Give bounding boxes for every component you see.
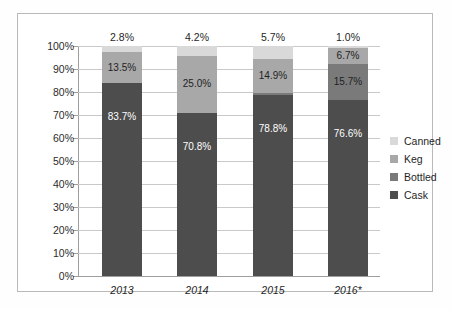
x-axis-tick-label: 2014	[162, 284, 232, 296]
y-axis-tick-label: 40%	[53, 178, 74, 190]
legend-swatch-icon	[390, 191, 398, 199]
bar-segment-keg[interactable]: 25.0%	[177, 56, 217, 114]
bar-segment-keg[interactable]: 13.5%	[102, 52, 142, 83]
legend-label: Bottled	[404, 171, 437, 183]
legend-label: Cask	[404, 189, 428, 201]
y-axis-tick-label: 90%	[53, 63, 74, 75]
legend-swatch-icon	[390, 155, 398, 163]
chart-screenshot: 100%90%80%70%60%50%40%30%20%10%0%13.5%83…	[0, 0, 451, 310]
chart-frame: 100%90%80%70%60%50%40%30%20%10%0%13.5%83…	[17, 13, 433, 292]
bar-segment-value-label: 14.9%	[253, 70, 293, 81]
x-axis-tick-label: 2016*	[313, 284, 383, 296]
y-axis-tick-label: 20%	[53, 224, 74, 236]
bar-segment-value-label: 6.7%	[328, 50, 368, 61]
legend-item-cask[interactable]: Cask	[390, 186, 441, 204]
bar-top-value-label: 2.8%	[94, 31, 150, 43]
legend-item-keg[interactable]: Keg	[390, 150, 441, 168]
chart-legend: CannedKegBottledCask	[390, 132, 441, 204]
y-axis-tick-label: 50%	[53, 155, 74, 167]
bar-segment-canned[interactable]	[253, 46, 293, 59]
bar-segment-value-label: 83.7%	[102, 111, 142, 122]
bar-top-value-label: 5.7%	[245, 31, 301, 43]
bar-top-value-label: 1.0%	[320, 31, 376, 43]
bar-segment-value-label: 25.0%	[177, 78, 217, 89]
legend-item-bottled[interactable]: Bottled	[390, 168, 441, 186]
bar-segment-cask[interactable]: 70.8%	[177, 113, 217, 276]
bar-segment-keg[interactable]: 14.9%	[253, 59, 293, 93]
bar-segment-cask[interactable]: 76.6%	[328, 100, 368, 276]
legend-swatch-icon	[390, 173, 398, 181]
bar-segment-cask[interactable]: 83.7%	[102, 83, 142, 276]
y-axis-tick-label: 100%	[47, 40, 74, 52]
plot-area: 100%90%80%70%60%50%40%30%20%10%0%13.5%83…	[78, 46, 380, 276]
y-axis-tick-label: 0%	[59, 270, 74, 282]
y-axis-tick-label: 80%	[53, 86, 74, 98]
bar-segment-value-label: 15.7%	[328, 76, 368, 87]
bar-column[interactable]: 13.5%83.7%2.8%	[102, 46, 142, 276]
y-axis-tick-label: 30%	[53, 201, 74, 213]
bar-segment-value-label: 78.8%	[253, 123, 293, 134]
y-axis-tick-label: 60%	[53, 132, 74, 144]
gridline	[78, 276, 380, 277]
bar-segment-value-label: 13.5%	[102, 62, 142, 73]
y-axis-tick-label: 70%	[53, 109, 74, 121]
x-axis-tick-label: 2013	[87, 284, 157, 296]
legend-item-canned[interactable]: Canned	[390, 132, 441, 150]
bar-column[interactable]: 25.0%70.8%4.2%	[177, 46, 217, 276]
bar-segment-keg[interactable]: 6.7%	[328, 48, 368, 63]
bar-segment-canned[interactable]	[177, 46, 217, 56]
legend-label: Keg	[404, 153, 423, 165]
bar-segment-value-label: 76.6%	[328, 128, 368, 139]
legend-swatch-icon	[390, 137, 398, 145]
bar-segment-bottled[interactable]: 15.7%	[328, 64, 368, 100]
bar-column[interactable]: 6.7%15.7%76.6%1.0%	[328, 46, 368, 276]
x-axis-tick-label: 2015	[238, 284, 308, 296]
legend-label: Canned	[404, 135, 441, 147]
bar-segment-cask[interactable]: 78.8%	[253, 95, 293, 276]
bar-top-value-label: 4.2%	[169, 31, 225, 43]
y-axis-tick-label: 10%	[53, 247, 74, 259]
bar-column[interactable]: 14.9%78.8%5.7%	[253, 46, 293, 276]
bar-segment-value-label: 70.8%	[177, 141, 217, 152]
